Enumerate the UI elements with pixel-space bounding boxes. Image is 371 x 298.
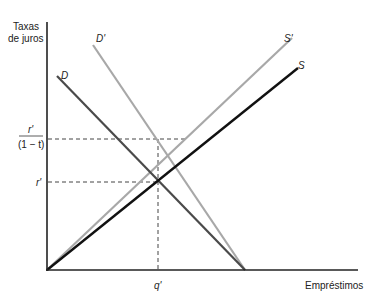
curve-label-d-prime: D' (96, 33, 105, 44)
curve-label-d: D (61, 70, 68, 81)
tick-r-prime-over-denominator: (1 − t) (18, 139, 44, 150)
supply-curve-s (47, 68, 298, 270)
tick-r-prime-over-numerator: r' (28, 124, 33, 135)
tick-r-prime: r' (36, 177, 41, 188)
supply-curve-s-prime (47, 38, 292, 270)
y-axis-label-line2: de juros (8, 33, 44, 44)
curve-label-s: S (298, 60, 305, 71)
demand-curve-d (57, 76, 245, 270)
x-axis-label: Empréstimos (305, 280, 363, 291)
tick-q-prime: q' (154, 280, 161, 291)
demand-curve-d-prime (93, 45, 245, 270)
curve-label-s-prime: S' (284, 33, 293, 44)
supply-demand-diagram (0, 0, 371, 298)
y-axis-label-line1: Taxas (13, 21, 39, 32)
